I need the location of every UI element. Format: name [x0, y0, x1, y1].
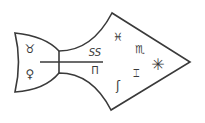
- venus-symbol: ♀: [26, 67, 35, 81]
- pisces-symbol: ♓: [113, 31, 123, 44]
- pi-symbol: Π: [91, 65, 99, 76]
- double-s-symbol: SS: [89, 47, 102, 58]
- star-symbol: ✳: [151, 55, 164, 74]
- scorpio-symbol: ♏: [135, 43, 145, 56]
- sigil-diagram: ♉ ♀ SS Π ♓ ♏ ✳ ⌶ ʃ: [0, 0, 205, 123]
- bar-glyph-symbol: ⌶: [133, 67, 140, 80]
- taurus-symbol: ♉: [25, 42, 36, 56]
- hook-symbol: ʃ: [115, 79, 121, 93]
